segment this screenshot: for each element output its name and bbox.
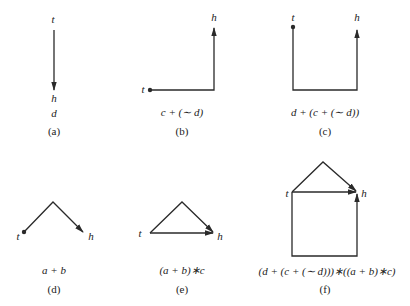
head-label: h (361, 187, 367, 199)
panel-caption: (b) (176, 125, 189, 138)
panel-c: t h d + (c + (∼ d)) (c) (291, 11, 360, 138)
edge-path-box (292, 192, 357, 256)
panel-f: t h (d + (c + (∼ d)))∗((a + b)∗c) (f) (259, 162, 396, 296)
expression-label: a + b (42, 264, 66, 276)
tail-label: t (141, 83, 145, 95)
edge-path (150, 28, 214, 90)
panel-caption: (e) (176, 283, 189, 296)
head-label: h (217, 230, 223, 242)
head-label: h (354, 11, 360, 23)
panel-d: t h a + b (d) (16, 202, 94, 296)
tail-label: t (285, 187, 289, 199)
panel-caption: (d) (48, 283, 61, 296)
head-label: h (211, 11, 217, 23)
panel-b: t h c + (∼ d) (b) (141, 11, 217, 138)
tail-label: t (51, 13, 55, 25)
tail-label: t (138, 227, 142, 239)
panel-caption: (c) (319, 125, 332, 138)
tail-label: t (291, 11, 295, 23)
head-label: h (88, 230, 94, 242)
edge-path-top (292, 162, 356, 192)
edge-path-top (150, 202, 213, 233)
panel-a: t h d (a) (48, 13, 61, 138)
edge-path (293, 27, 357, 90)
head-label: h (51, 92, 57, 104)
diagram-canvas: t h d (a) t h c + (∼ d) (b) t h d + (c +… (0, 0, 410, 306)
panel-caption: (a) (48, 125, 61, 138)
expression-label: d (51, 107, 57, 119)
edge-path (24, 202, 83, 232)
panel-caption: (f) (320, 283, 331, 296)
tail-label: t (16, 230, 20, 242)
expression-label: c + (∼ d) (161, 106, 204, 119)
expression-label: (a + b)∗c (159, 264, 204, 277)
expression-label: (d + (c + (∼ d)))∗((a + b)∗c) (259, 265, 396, 278)
expression-label: d + (c + (∼ d)) (291, 106, 359, 119)
panel-e: t h (a + b)∗c (e) (138, 202, 223, 296)
